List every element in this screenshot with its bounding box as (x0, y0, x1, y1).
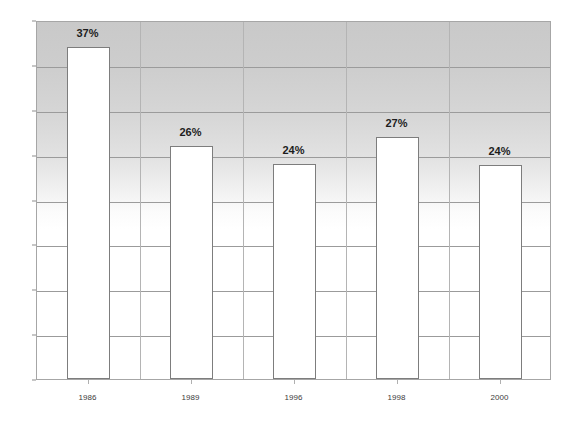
y-axis-tick-mark (32, 155, 36, 156)
y-axis-tick-mark (32, 65, 36, 66)
bar[interactable] (170, 146, 214, 379)
gridline-vertical (346, 22, 347, 379)
x-axis-tick-label: 1998 (387, 393, 405, 402)
x-axis-tick-mark (191, 380, 192, 384)
y-axis-tick-mark (32, 200, 36, 201)
y-axis-tick-mark (32, 21, 36, 22)
x-axis-tick-label: 1986 (78, 393, 96, 402)
y-axis-tick-mark (32, 290, 36, 291)
gridline-horizontal (37, 67, 550, 68)
gridline-vertical (449, 22, 450, 379)
plot-area (36, 21, 551, 380)
bar-chart: 0510152025303540 19861989199619982000 37… (0, 0, 579, 421)
x-axis-tick-mark (397, 380, 398, 384)
y-axis-tick-mark (32, 110, 36, 111)
bar-value-label: 37% (76, 27, 98, 39)
x-axis-tick-label: 1996 (284, 393, 302, 402)
bar[interactable] (273, 164, 317, 379)
x-axis-tick-label: 1989 (181, 393, 199, 402)
x-axis-tick-mark (294, 380, 295, 384)
x-axis-tick-label: 2000 (490, 393, 508, 402)
gridline-horizontal (37, 157, 550, 158)
x-axis-tick-mark (500, 380, 501, 384)
y-axis-tick-mark (32, 380, 36, 381)
y-axis-tick-mark (32, 335, 36, 336)
bar-value-label: 24% (488, 145, 510, 157)
gridline-vertical (140, 22, 141, 379)
bar[interactable] (376, 137, 420, 379)
bar-value-label: 26% (179, 126, 201, 138)
gridline-vertical (243, 22, 244, 379)
bar-value-label: 24% (282, 144, 304, 156)
bar[interactable] (479, 165, 523, 379)
x-axis-tick-mark (88, 380, 89, 384)
y-axis-tick-mark (32, 245, 36, 246)
bar[interactable] (67, 47, 111, 379)
gridline-horizontal (37, 112, 550, 113)
bar-value-label: 27% (385, 117, 407, 129)
